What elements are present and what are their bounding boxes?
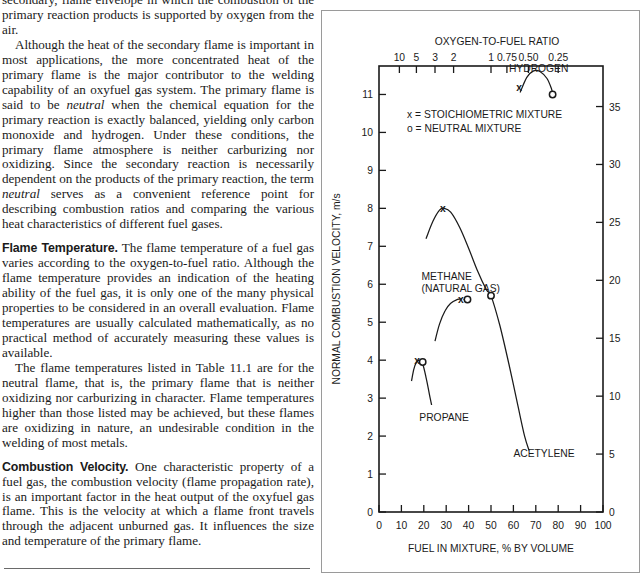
legend-entry-x: x = STOICHIOMETRIC MIXTURE — [407, 109, 562, 120]
neutral-marker — [549, 91, 555, 97]
top-axis-tick-label: 2 — [451, 52, 457, 63]
paragraph-p2: Flame Temperature. The flame temperature… — [2, 241, 314, 361]
series-label-methane: (NATURAL GAS) — [422, 283, 500, 294]
paragraph-p3: The flame temperatures listed in Table 1… — [2, 361, 314, 451]
top-axis-tick-label: 0.25 — [548, 52, 568, 63]
y-axis-tick-label: 7 — [367, 241, 373, 252]
top-axis-tick-label: 3 — [432, 52, 438, 63]
top-axis-tick-label: 0.50 — [518, 52, 538, 63]
stoichiometric-marker: x — [440, 203, 446, 214]
figure-panel: 0102030405060708090100FUEL IN MIXTURE, %… — [321, 10, 640, 573]
y-axis-tick-label: 10 — [362, 127, 374, 138]
top-axis-title: OXYGEN-TO-FUEL RATIO — [435, 36, 560, 47]
run-in-heading: Flame Temperature. — [2, 241, 118, 255]
combustion-velocity-chart: 0102030405060708090100FUEL IN MIXTURE, %… — [322, 11, 639, 572]
x-axis-tick-label: 90 — [575, 520, 587, 531]
x-axis-tick-label: 20 — [418, 520, 430, 531]
x-axis-title: FUEL IN MIXTURE, % BY VOLUME — [408, 543, 574, 554]
paragraph-p4: Combustion Velocity. One characteristic … — [2, 460, 314, 550]
body-text: The flame temperature of a fuel gas vari… — [2, 240, 314, 360]
series-label-propane: PROPANE — [419, 412, 469, 423]
x-axis-tick-label: 70 — [530, 520, 542, 531]
y-axis-tick-label: 8 — [367, 203, 373, 214]
y2-axis-tick-label: 15 — [609, 333, 621, 344]
emphasis-text: neutral — [67, 97, 105, 112]
body-text: secondary, flame envelope in which the c… — [2, 0, 314, 37]
emphasis-text: neutral — [2, 186, 40, 201]
y2-axis-tick-label: 5 — [609, 449, 615, 460]
page-horizontal-rule — [4, 568, 310, 569]
top-axis-tick-label: 1 — [488, 52, 494, 63]
article-text-column: secondary, flame envelope in which the c… — [0, 0, 318, 585]
x-axis-tick-label: 40 — [463, 520, 475, 531]
run-in-heading: Combustion Velocity. — [2, 460, 128, 474]
x-axis-tick-label: 80 — [552, 520, 564, 531]
y2-axis-tick-label: 25 — [609, 217, 621, 228]
x-axis-tick-label: 10 — [396, 520, 408, 531]
y-axis-tick-label: 3 — [367, 393, 373, 404]
series-label-hydrogen: HYDROGEN — [509, 63, 569, 74]
body-text: serves as a convenient reference point f… — [2, 186, 314, 231]
stoichiometric-marker: x — [458, 294, 464, 305]
paragraph-p0: secondary, flame envelope in which the c… — [2, 0, 314, 38]
y-axis-tick-label: 11 — [362, 89, 373, 100]
x-axis-tick-label: 50 — [485, 520, 497, 531]
top-axis-tick-label: 5 — [414, 52, 420, 63]
x-axis-tick-label: 0 — [376, 520, 382, 531]
neutral-marker — [419, 359, 425, 365]
y-axis-tick-label: 6 — [367, 279, 373, 290]
y-axis-tick-label: 2 — [367, 431, 373, 442]
y-axis-title: NORMAL COMBUSTION VELOCITY, m/s — [331, 193, 342, 384]
series-label-acetylene: ACETYLENE — [513, 448, 574, 459]
y-axis-tick-label: 9 — [367, 165, 373, 176]
paragraph-p1: Although the heat of the secondary flame… — [2, 38, 314, 232]
y2-axis-tick-label: 35 — [609, 102, 621, 113]
stoichiometric-marker: x — [516, 82, 522, 93]
y-axis-tick-label: 5 — [367, 317, 373, 328]
y2-axis-tick-label: 30 — [609, 159, 621, 170]
x-axis-tick-label: 60 — [508, 520, 520, 531]
y2-axis-tick-label: 0 — [609, 507, 615, 518]
top-axis-tick-label: 0.75 — [497, 52, 517, 63]
y-axis-tick-label: 1 — [367, 469, 373, 480]
x-axis-tick-label: 100 — [594, 520, 611, 531]
y2-axis-tick-label: 20 — [609, 275, 621, 286]
x-axis-tick-label: 30 — [440, 520, 452, 531]
series-label-methane: METHANE — [422, 271, 472, 282]
series-curve-hydrogen — [520, 70, 553, 94]
top-axis-tick-label: 10 — [394, 52, 406, 63]
y-axis-tick-label: 0 — [367, 507, 373, 518]
y-axis-tick-label: 4 — [367, 355, 373, 366]
legend-entry-o: o = NEUTRAL MIXTURE — [407, 123, 521, 134]
neutral-marker — [464, 296, 470, 302]
series-curve-propane — [412, 360, 432, 405]
y2-axis-tick-label: 10 — [609, 391, 621, 402]
body-text: The flame temperatures listed in Table 1… — [2, 360, 314, 450]
